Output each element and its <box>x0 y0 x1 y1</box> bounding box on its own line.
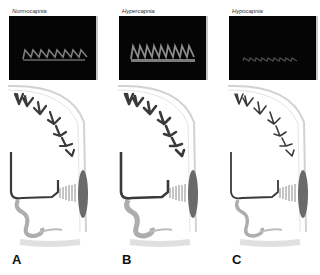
panel-letter: B <box>122 252 131 267</box>
head-vessel-illustration <box>220 82 320 247</box>
panel-normocapnia: Normocapnia A <box>0 0 106 275</box>
panel-letter: C <box>232 252 241 267</box>
panel-letter: A <box>12 252 21 267</box>
doppler-spectrum <box>9 16 98 80</box>
panel-hypercapnia: Hypercapnia <box>110 0 216 275</box>
condition-label: Hypocapnia <box>232 8 263 14</box>
head-vessel-illustration <box>110 82 216 247</box>
doppler-waveform <box>9 16 96 80</box>
head-vessel-illustration <box>0 82 106 247</box>
doppler-spectrum <box>119 16 208 80</box>
condition-label: Hypercapnia <box>122 8 155 14</box>
doppler-waveform <box>119 16 206 80</box>
doppler-spectrum <box>229 16 318 80</box>
doppler-waveform <box>229 16 316 80</box>
panel-hypocapnia: Hypocapnia C <box>220 0 320 275</box>
condition-label: Normocapnia <box>12 8 47 14</box>
